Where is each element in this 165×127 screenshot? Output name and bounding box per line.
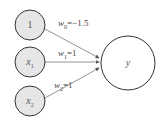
x2-subscript: 2	[31, 102, 34, 108]
output-label-y: y	[120, 58, 136, 68]
bias-text: 1	[28, 19, 33, 30]
y-text: y	[126, 57, 130, 68]
w0-value: −1.5	[72, 18, 88, 28]
weight-label-w1: w1=1	[58, 49, 77, 60]
input-label-bias: 1	[22, 20, 38, 30]
input-label-x1: x1	[22, 57, 38, 69]
w2-value: 1	[68, 80, 73, 90]
input-label-x2: x2	[22, 96, 38, 108]
weight-label-w0: w0=−1.5	[58, 19, 88, 30]
x1-subscript: 1	[31, 63, 34, 69]
w1-value: 1	[72, 48, 77, 58]
weight-label-w2: w2=1	[54, 81, 73, 92]
